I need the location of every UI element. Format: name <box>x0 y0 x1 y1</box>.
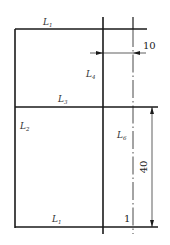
dim-40-value: 40 <box>138 161 149 174</box>
label-bottom: L1 <box>51 214 61 225</box>
label-top: L1 <box>42 17 52 28</box>
marker-one: 1 <box>124 213 130 224</box>
label-inner-vertical: L4 <box>85 69 96 80</box>
label-right-lower: L6 <box>116 130 127 141</box>
dim-10-value: 10 <box>143 40 156 51</box>
arrow-right-icon <box>96 51 103 55</box>
label-middle: L3 <box>57 94 68 105</box>
arrow-left-icon <box>133 51 140 55</box>
arrow-up-icon <box>150 107 154 114</box>
arrow-down-icon <box>150 220 154 227</box>
label-left-lower: L2 <box>19 121 30 132</box>
layout-diagram: 10 40 L1 L4 L3 L2 L6 L1 1 <box>0 0 170 245</box>
